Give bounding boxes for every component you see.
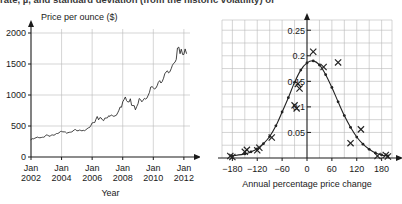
- x-tick-label-year: 2012: [174, 173, 194, 183]
- curve-data-point: [330, 86, 333, 89]
- x-tick-label-month: Jan: [85, 163, 100, 173]
- x-tick-label-year: 2008: [113, 173, 133, 183]
- curve-data-point: [337, 100, 340, 103]
- curve-data-point: [306, 62, 309, 65]
- x-tick-label: 0: [304, 164, 309, 174]
- y-tick-label: 0.2: [292, 51, 305, 61]
- x-tick-label: −180: [222, 164, 242, 174]
- x-axis-arrow: [396, 155, 402, 161]
- curve-data-point: [368, 148, 371, 151]
- price-change-distribution-chart-svg: 0.050.10.150.20.25−180−120−60060120180An…: [200, 8, 402, 204]
- y-axis-title: Price per ounce ($): [41, 12, 118, 22]
- curve-data-point: [362, 143, 365, 146]
- x-axis-title: Year: [101, 188, 119, 198]
- x-tick-label: −120: [247, 164, 267, 174]
- x-tick-label-month: Jan: [177, 163, 192, 173]
- x-tick-label: 180: [374, 164, 389, 174]
- curve-data-point: [343, 114, 346, 117]
- x-tick-label-year: 2010: [143, 173, 163, 183]
- observed-data-point: [310, 49, 316, 55]
- x-tick-label: 60: [327, 164, 337, 174]
- distribution-curve: [232, 61, 387, 156]
- x-tick-label-year: 2004: [52, 173, 72, 183]
- x-tick-label-year: 2002: [21, 173, 41, 183]
- y-tick-label: 1000: [6, 90, 26, 100]
- y-axis-arrow: [28, 20, 34, 27]
- x-tick-label-year: 2006: [82, 173, 102, 183]
- curve-data-point: [380, 154, 383, 157]
- curve-data-point: [262, 142, 265, 145]
- y-tick-label: 1500: [6, 59, 26, 69]
- curve-data-point: [324, 73, 327, 76]
- observed-data-point: [385, 153, 391, 159]
- curve-data-point: [275, 124, 278, 127]
- clipped-header-text-content: rate, µ, and standard deviation (from th…: [0, 0, 402, 4]
- curve-data-point: [355, 136, 358, 139]
- x-tick-label: −60: [274, 164, 289, 174]
- y-tick-label: 0: [21, 152, 26, 162]
- gold-price-chart: Price per ounce ($)0500100015002000Jan20…: [0, 8, 200, 204]
- curve-data-point: [349, 126, 352, 129]
- curve-data-point: [312, 59, 315, 62]
- observed-data-point: [358, 126, 364, 132]
- y-tick-label: 2000: [6, 28, 26, 38]
- y-tick-label: 0.05: [287, 128, 305, 138]
- curve-data-point: [281, 111, 284, 114]
- observed-data-point: [335, 59, 341, 65]
- x-tick-label-month: Jan: [54, 163, 69, 173]
- y-tick-label: 0.25: [287, 26, 305, 36]
- y-tick-label: 500: [11, 121, 26, 131]
- curve-data-point: [299, 69, 302, 72]
- gold-price-chart-svg: Price per ounce ($)0500100015002000Jan20…: [0, 8, 200, 204]
- x-tick-label-month: Jan: [24, 163, 39, 173]
- x-axis-title: Annual percentage price change: [242, 179, 372, 189]
- y-axis-arrow: [304, 13, 310, 20]
- x-tick-label-month: Jan: [115, 163, 130, 173]
- x-tick-label: 120: [349, 164, 364, 174]
- price-change-distribution-chart: 0.050.10.150.20.25−180−120−60060120180An…: [200, 8, 402, 204]
- curve-data-point: [287, 96, 290, 99]
- x-tick-label-month: Jan: [146, 163, 161, 173]
